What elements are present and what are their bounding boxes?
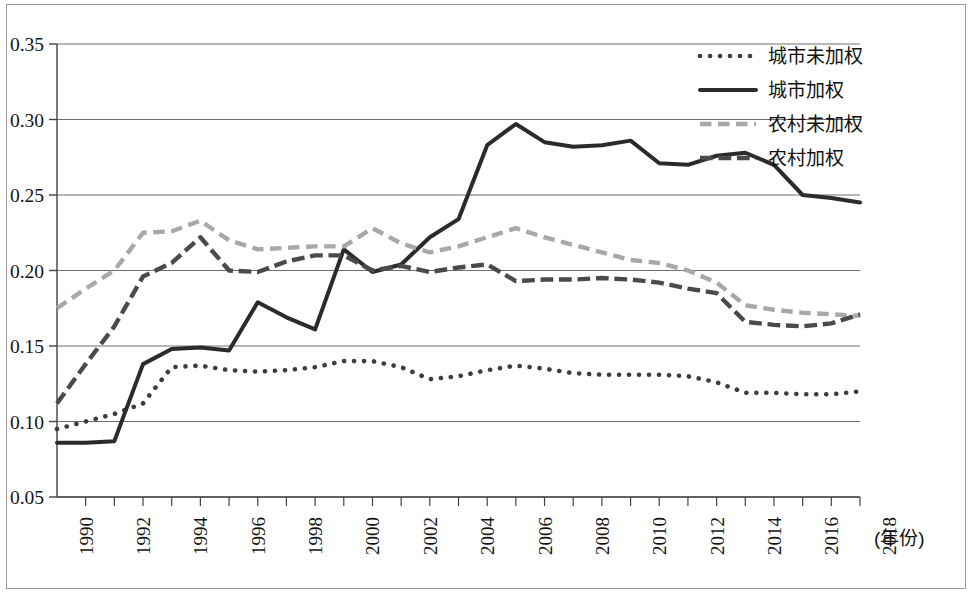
y-tick-label: 0.25	[10, 185, 44, 206]
y-tick-label: 0.15	[10, 336, 44, 357]
legend-label-3: 农村加权	[768, 148, 844, 169]
series-line-1	[57, 124, 860, 443]
x-tick-label: 2016	[821, 517, 842, 555]
x-tick-label: 1994	[190, 517, 211, 556]
x-tick-label: 1990	[76, 517, 97, 555]
x-tick-label: 2012	[707, 517, 728, 555]
x-tick-label: 2000	[362, 517, 383, 555]
y-tick-label: 0.20	[10, 261, 44, 282]
y-tick-label: 0.05	[10, 487, 44, 508]
y-tick-label: 0.30	[10, 110, 44, 131]
x-tick-label: 2004	[477, 517, 498, 556]
line-chart: 0.050.100.150.200.250.300.35199019921994…	[0, 0, 974, 595]
x-tick-label: 2006	[535, 517, 556, 555]
x-tick-label: 2002	[420, 517, 441, 555]
legend-label-0: 城市未加权	[768, 46, 863, 67]
legend-label-1: 城市加权	[768, 80, 844, 101]
series-line-0	[57, 361, 860, 429]
series-group	[57, 124, 860, 443]
y-axis-ticks: 0.050.100.150.200.250.300.35	[10, 34, 57, 508]
x-tick-label: 1996	[248, 517, 269, 555]
series-line-3	[57, 237, 860, 403]
x-axis-unit-label: (年份)	[874, 528, 925, 549]
x-tick-label: 2010	[649, 517, 670, 555]
x-axis-ticks: 1990199219941996199820002002200420062008…	[76, 497, 900, 555]
x-tick-label: 1998	[305, 517, 326, 555]
legend: 城市未加权城市加权农村未加权农村加权	[700, 46, 863, 169]
gridlines	[57, 44, 860, 497]
legend-label-2: 农村未加权	[768, 114, 863, 135]
figure-page: 0.050.100.150.200.250.300.35199019921994…	[0, 0, 974, 595]
y-tick-label: 0.10	[10, 412, 44, 433]
x-tick-label: 2014	[764, 517, 785, 556]
x-tick-label: 1992	[133, 517, 154, 555]
x-tick-label: 2008	[592, 517, 613, 555]
y-tick-label: 0.35	[10, 34, 44, 55]
